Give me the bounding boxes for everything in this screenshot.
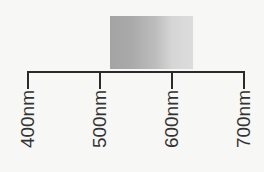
tick-label-600nm: 600nm <box>161 90 183 166</box>
spectrum-swatch <box>110 16 193 69</box>
tick-700nm <box>243 71 245 89</box>
tick-label-400nm: 400nm <box>17 90 39 166</box>
tick-400nm <box>27 71 29 89</box>
wavelength-axis-line <box>27 71 245 73</box>
tick-label-500nm: 500nm <box>89 90 111 166</box>
tick-600nm <box>171 71 173 89</box>
tick-500nm <box>99 71 101 89</box>
tick-label-700nm: 700nm <box>233 90 255 166</box>
